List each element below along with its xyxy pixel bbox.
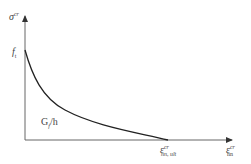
y-axis-label: σcr: [9, 12, 19, 22]
x-axis-label: εcrnn: [226, 145, 233, 155]
fracture-energy-label: Gf/h: [41, 117, 58, 127]
diagram-canvas: [0, 0, 251, 164]
peak-stress-label: ft: [12, 47, 16, 57]
ultimate-strain-label: εcrnn, ult: [160, 145, 176, 155]
